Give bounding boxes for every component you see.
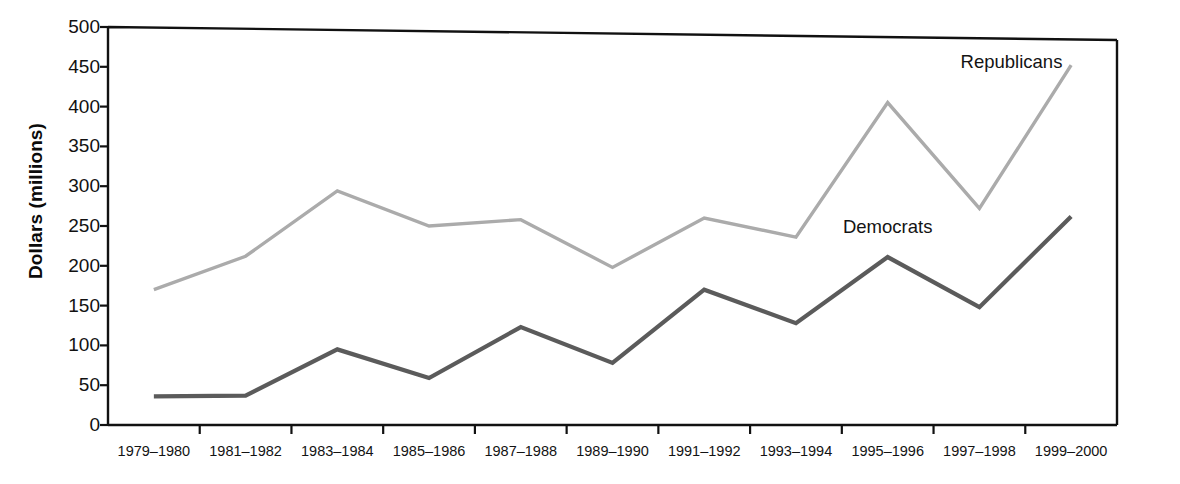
series-label-republicans: Republicans <box>961 51 1063 73</box>
line-chart: Dollars (millions) 050100150200250300350… <box>0 0 1180 484</box>
x-tick-label: 1983–1984 <box>301 443 374 459</box>
series-line-democrats <box>154 216 1071 396</box>
x-tick-label: 1979–1980 <box>118 443 191 459</box>
series-lines <box>154 65 1071 396</box>
series-label-democrats: Democrats <box>843 216 932 238</box>
x-tick-label: 1991–1992 <box>668 443 741 459</box>
x-tick-label: 1985–1986 <box>393 443 466 459</box>
x-axis-tick-marks <box>200 425 1026 434</box>
x-tick-label: 1999–2000 <box>1035 443 1108 459</box>
x-tick-label: 1993–1994 <box>760 443 833 459</box>
x-tick-label: 1989–1990 <box>576 443 649 459</box>
x-tick-label: 1997–1998 <box>943 443 1016 459</box>
axis-frame <box>108 27 1117 425</box>
series-line-republicans <box>154 65 1071 289</box>
x-tick-label: 1995–1996 <box>851 443 924 459</box>
x-tick-label: 1981–1982 <box>209 443 282 459</box>
x-tick-label: 1987–1988 <box>484 443 557 459</box>
